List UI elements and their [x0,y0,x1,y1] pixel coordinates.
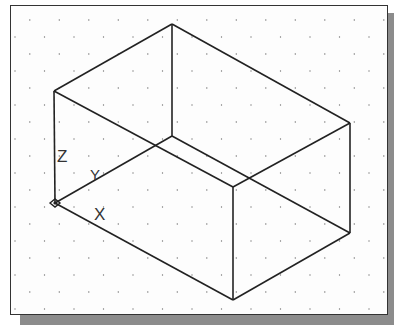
ucs-z-label: Z [57,147,67,166]
box-wireframe [54,24,350,300]
box-edge [172,136,350,233]
box-edge [172,24,350,123]
box-edge [54,91,233,187]
ucs-x-label: X [94,205,105,224]
box-edge [55,203,233,300]
box-edge [55,136,172,203]
box-edge [54,24,172,91]
box-edge [233,233,350,300]
ucs-icon: Z Y X [50,147,105,224]
isometric-dot-grid [14,19,384,309]
box-edge [233,123,350,187]
drawing-canvas: Z Y X [0,0,394,333]
box-edge [54,91,55,203]
ucs-y-label: Y [90,166,100,183]
